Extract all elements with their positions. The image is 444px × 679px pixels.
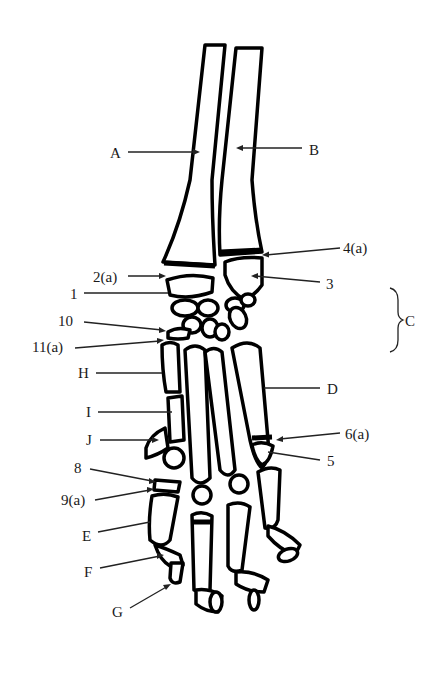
bone-a-shaft (163, 45, 225, 265)
bone-i (168, 396, 184, 442)
growth-plate-6a (252, 437, 272, 438)
label-d: D (327, 382, 338, 397)
label-11a: 11(a) (32, 340, 63, 355)
label-4a: 4(a) (343, 241, 367, 256)
phalanx (193, 486, 211, 504)
claw (249, 590, 259, 610)
label-j: J (86, 433, 92, 448)
carpal (215, 324, 229, 340)
phalanx-4 (258, 468, 280, 528)
label-10: 10 (58, 314, 73, 329)
bone-g (170, 563, 183, 583)
bone-1 (167, 275, 213, 296)
phalanx-3 (228, 503, 250, 571)
carpal (241, 294, 255, 306)
phalanx (230, 475, 248, 493)
forelimb-bone-diagram: A B 4(a) 2(a) 3 1 C 10 11(a) H D I 6(a) … (0, 0, 444, 679)
bone-h (162, 343, 180, 393)
label-8: 8 (74, 461, 82, 476)
sesamoid (164, 448, 184, 468)
claw (210, 592, 222, 612)
label-h: H (78, 366, 89, 381)
growth-plate-2a (164, 263, 215, 266)
label-e: E (82, 529, 91, 544)
bone-10 (168, 328, 190, 339)
growth-plate-4a (221, 250, 262, 252)
label-f: F (84, 565, 92, 580)
label-2a: 2(a) (93, 270, 117, 285)
phalanx-2 (192, 513, 212, 592)
bone-b-shaft (219, 48, 262, 255)
label-1: 1 (70, 287, 78, 302)
bone-8 (154, 480, 180, 492)
label-b: B (309, 143, 319, 158)
label-a: A (110, 146, 121, 161)
bone-5 (252, 443, 273, 465)
carpal (172, 300, 198, 316)
bone-e (149, 494, 178, 545)
label-i: I (86, 405, 91, 420)
bracket-c (390, 288, 403, 352)
label-5: 5 (327, 454, 335, 469)
label-c: C (405, 314, 415, 329)
label-9a: 9(a) (61, 493, 85, 508)
label-g: G (112, 605, 123, 620)
label-3: 3 (326, 277, 334, 292)
carpal (198, 300, 218, 316)
bone-drawing (0, 0, 444, 679)
label-6a: 6(a) (345, 427, 369, 442)
